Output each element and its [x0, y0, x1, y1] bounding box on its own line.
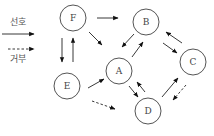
edge-d-to-a-arrow: [137, 82, 145, 92]
legend-label-rejection: 거부: [10, 54, 26, 64]
edge-a-to-b-arrow: [132, 42, 143, 57]
edge-b-to-a-arrow: [122, 34, 134, 47]
edge-c-to-b-arrow: [166, 32, 182, 43]
edge-e-to-a-arrow: [88, 79, 104, 88]
legend: 선호 거부: [2, 17, 34, 64]
nodes: FBCAED: [54, 5, 206, 124]
node-a: A: [106, 58, 132, 84]
node-c: C: [180, 49, 206, 75]
node-label: F: [70, 13, 76, 23]
node-d: D: [135, 98, 161, 124]
edge-f-to-a-arrow: [89, 32, 102, 45]
edge-a-to-d-arrow: [129, 86, 138, 97]
edge-d-to-c-arrow: [162, 78, 178, 97]
edge-c-to-d-arrow: [173, 85, 186, 100]
node-label: A: [115, 66, 123, 76]
relationship-diagram: 선호 거부 FBCAED: [0, 0, 214, 136]
node-f: F: [60, 5, 86, 31]
node-e: E: [54, 73, 80, 99]
edge-b-to-c-arrow: [163, 43, 177, 53]
legend-label-preference: 선호: [10, 17, 26, 27]
node-label: C: [190, 57, 197, 67]
node-label: D: [144, 106, 151, 116]
edge-e-to-d-arrow: [92, 101, 115, 109]
node-label: E: [64, 81, 71, 91]
node-b: B: [133, 9, 159, 35]
node-label: B: [143, 17, 150, 27]
